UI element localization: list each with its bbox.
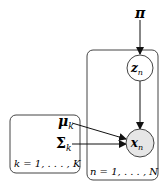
label-sigma: Σk <box>56 135 71 153</box>
label-pi: π <box>134 5 146 21</box>
graphical-model-diagram: π zn xn μk Σk k = 1, . . . , K n = 1, . … <box>0 0 168 195</box>
label-mu: μk <box>58 113 74 131</box>
plate-k-label: k = 1, . . . , K <box>14 158 81 169</box>
plate-n-label: n = 1, . . . , N <box>90 166 159 177</box>
